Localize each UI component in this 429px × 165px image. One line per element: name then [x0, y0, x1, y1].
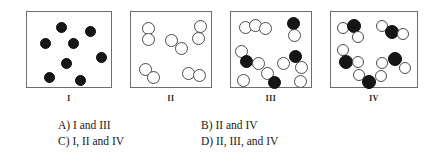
light-particle [352, 31, 364, 43]
particle-box-ii [130, 11, 212, 88]
panel-label-i: I [26, 94, 112, 104]
option-b[interactable]: B) II and IV [201, 118, 258, 133]
light-particle [288, 29, 301, 42]
option-c[interactable]: C) I, II and IV [58, 134, 124, 149]
light-particle [175, 42, 188, 55]
particle-field [231, 12, 311, 87]
dark-particle [68, 38, 79, 49]
dark-particle [240, 55, 253, 68]
dark-particle [75, 75, 86, 86]
particle-field [131, 12, 211, 87]
dark-particle [85, 26, 96, 37]
light-particle [294, 75, 307, 88]
light-particle [142, 33, 155, 46]
light-particle [375, 70, 387, 82]
dark-particle [56, 22, 67, 33]
particle-field [331, 12, 417, 87]
dark-particle [362, 75, 376, 89]
particle-diagram-figure: IIIIIIIV A) I and III C) I, II and IV B)… [0, 0, 429, 165]
light-particle [399, 62, 411, 74]
particle-field [27, 12, 111, 87]
panel-label-iv: IV [330, 94, 418, 104]
light-particle [352, 56, 364, 68]
answer-options: A) I and III C) I, II and IV B) II and I… [0, 118, 429, 162]
option-d[interactable]: D) II, III, and IV [201, 134, 278, 149]
light-particle [194, 20, 207, 33]
light-particle [376, 57, 388, 69]
dark-particle [268, 76, 281, 89]
light-particle [397, 28, 409, 40]
light-particle [277, 57, 290, 70]
dark-particle [339, 55, 353, 69]
dark-particle [61, 58, 72, 69]
light-particle [193, 69, 206, 82]
particle-box-i [26, 11, 112, 88]
dark-particle [44, 72, 55, 83]
particle-box-iii [230, 11, 312, 88]
light-particle [192, 32, 205, 45]
dark-particle [40, 38, 51, 49]
light-particle [295, 61, 308, 74]
light-particle [259, 22, 272, 35]
particle-box-iv [330, 11, 418, 88]
dark-particle [96, 52, 107, 63]
light-particle [237, 74, 250, 87]
light-particle [147, 71, 160, 84]
panel-label-iii: III [230, 94, 312, 104]
option-a[interactable]: A) I and III [58, 118, 111, 133]
panel-label-ii: II [130, 94, 212, 104]
